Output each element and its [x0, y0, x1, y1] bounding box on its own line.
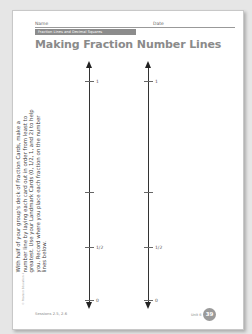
number-line-2: 1 1/2 0	[148, 67, 149, 303]
instructions: With half of your group's deck of Fracti…	[15, 102, 48, 272]
worksheet-page: Name Date Fraction Lines and Decimal Squ…	[12, 10, 244, 330]
tick-label: 1	[96, 79, 99, 84]
sessions-label: Sessions 2.5, 2.6	[35, 311, 67, 316]
arrow-down-icon	[145, 302, 151, 309]
page-title: Making Fraction Number Lines	[35, 38, 221, 51]
tick	[144, 300, 153, 301]
tick	[85, 300, 94, 301]
tick	[85, 192, 94, 193]
unit-label: Unit 6	[191, 313, 201, 317]
tick	[144, 81, 153, 82]
tick-label: 1	[155, 79, 158, 84]
tick-label: 0	[155, 298, 158, 303]
tick	[85, 247, 94, 248]
unit-banner: Fraction Lines and Decimal Squares	[35, 29, 136, 35]
arrow-up-icon	[145, 61, 151, 68]
tick-label: 0	[96, 298, 99, 303]
header-rule	[35, 27, 235, 28]
arrow-down-icon	[86, 302, 92, 309]
date-label: Date	[153, 21, 164, 26]
tick	[144, 192, 153, 193]
arrow-up-icon	[86, 61, 92, 68]
tick-label: 1/2	[96, 245, 103, 250]
name-label: Name	[35, 21, 48, 26]
copyright-note: © Pearson Education 4	[21, 245, 25, 305]
page-number-badge: 39	[203, 308, 216, 321]
tick	[144, 247, 153, 248]
tick-label: 1/2	[155, 245, 162, 250]
tick	[85, 81, 94, 82]
number-line-1: 1 1/2 0	[89, 67, 90, 303]
